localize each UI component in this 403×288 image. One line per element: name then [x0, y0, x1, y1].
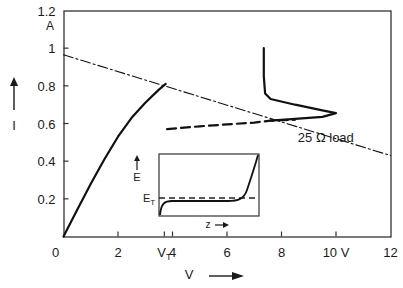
series-line-2 — [264, 48, 336, 121]
x-tick-label: 10 V — [323, 245, 350, 260]
y-tick-label: 0.4 — [37, 154, 55, 169]
x-tick-label: 4 — [169, 245, 176, 260]
inset-field-plot: ET E z — [133, 154, 259, 230]
y-axis-label: I — [12, 118, 16, 133]
y-tick-label: 1 — [48, 41, 55, 56]
up-arrowhead-icon — [10, 77, 18, 86]
x-tick-label: 12 — [383, 245, 397, 260]
load-line-annotation: 25 Ω load — [298, 130, 354, 145]
x-axis-label: V — [185, 267, 194, 282]
series-line-0 — [64, 84, 166, 237]
inset-y-label: E — [133, 171, 140, 183]
right-arrowhead-icon — [232, 272, 244, 280]
y-tick-label: 0.2 — [37, 192, 55, 207]
x-tick-label: 8 — [278, 245, 285, 260]
y-tick-label: 0.6 — [37, 117, 55, 132]
y-unit-label: A — [46, 19, 54, 33]
y-tick-label: 0.8 — [37, 79, 55, 94]
x-tick-label: 6 — [223, 245, 230, 260]
inset-up-arrowhead-icon — [134, 155, 140, 161]
x-axis-label-group: V — [185, 267, 244, 282]
x-tick-label: 2 — [114, 245, 121, 260]
y-tick-label: 1.2 — [37, 4, 55, 19]
inset-threshold-label: ET — [143, 192, 155, 207]
y-axis-label-group: I — [10, 77, 18, 133]
chart-canvas: 0.20.40.60.811.2 02VT46810 V12 A I V 25 … — [0, 0, 403, 288]
inset-right-arrowhead-icon — [223, 222, 229, 228]
x-tick-label: 0 — [52, 245, 59, 260]
x-axis-ticks: 02VT46810 V12 — [52, 232, 398, 262]
inset-x-label: z — [206, 219, 211, 230]
